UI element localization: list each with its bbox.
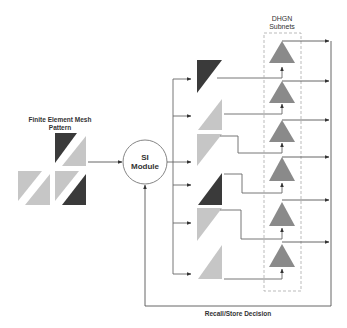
si-module-label-line2: Module (131, 162, 160, 171)
input-pattern-title-line2: Pattern (49, 124, 71, 131)
si-module: SI Module (123, 140, 167, 184)
subnet-node-6 (269, 244, 295, 267)
subnet-node-4 (269, 157, 295, 181)
input-mesh-pattern (18, 133, 86, 205)
si-module-label-line1: SI (141, 153, 149, 162)
subnet-node-3 (269, 120, 295, 142)
sub-pattern-4 (198, 173, 222, 205)
subnets-title-line1: DHGN (272, 15, 293, 22)
feedback-label: Recall/Store Decision (205, 310, 271, 317)
subnet-node-1 (269, 41, 295, 63)
subnets-title-line2: Subnets (269, 23, 295, 30)
sub-pattern-2 (198, 99, 222, 130)
subnet-node-2 (269, 81, 295, 103)
sub-pattern-6 (198, 245, 222, 279)
input-pattern-title-line1: Finite Element Mesh (29, 116, 92, 123)
dhgn-architecture-diagram: Finite Element Mesh Pattern SI Module (0, 0, 347, 328)
distribution-bus (167, 79, 191, 274)
sub-pattern-3 (197, 134, 222, 166)
sub-pattern-5 (197, 208, 222, 241)
sub-pattern-1 (197, 60, 222, 93)
subnet-node-5 (269, 202, 295, 226)
